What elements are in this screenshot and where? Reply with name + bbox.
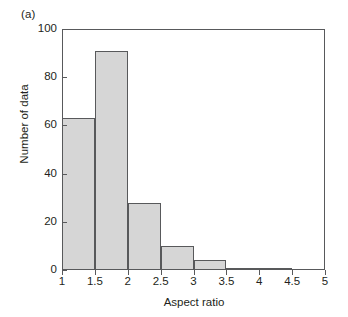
x-axis-tick-label: 2 <box>125 276 131 288</box>
y-axis-tick <box>62 77 67 78</box>
x-axis-tick-label: 3 <box>190 276 196 288</box>
y-axis-tick-label: 40 <box>44 168 57 180</box>
histogram-bar <box>194 260 227 270</box>
y-axis-title: Number of data <box>18 59 30 189</box>
panel-label: (a) <box>21 8 35 20</box>
y-axis-tick-label: 100 <box>38 23 57 35</box>
x-axis-tick-label: 5 <box>322 276 328 288</box>
x-axis-title-text: Aspect ratio <box>164 296 225 308</box>
y-axis-tick-label: 20 <box>44 216 57 228</box>
y-axis-tick-label: 0 <box>51 264 57 276</box>
y-axis-tick <box>62 222 67 223</box>
histogram-bar <box>95 51 128 270</box>
x-axis-tick-label: 4 <box>256 276 262 288</box>
histogram-figure: (a) 02040608010011.522.533.544.55 Aspect… <box>0 0 348 317</box>
histogram-bar <box>128 203 161 270</box>
histogram-bar <box>161 246 194 270</box>
y-axis-tick-label: 80 <box>44 71 57 83</box>
bars-layer <box>62 29 325 270</box>
x-axis-tick-label: 4.5 <box>284 276 300 288</box>
histogram-bar <box>62 118 95 270</box>
x-axis-tick-label: 1.5 <box>87 276 103 288</box>
x-axis-title: Aspect ratio <box>0 296 348 308</box>
y-axis-tick <box>62 29 67 30</box>
histogram-bar <box>226 268 259 270</box>
x-axis-tick-label: 1 <box>59 276 65 288</box>
histogram-bar <box>259 268 292 270</box>
x-axis-tick-label: 3.5 <box>218 276 234 288</box>
y-axis-tick <box>62 174 67 175</box>
y-axis-tick-label: 60 <box>44 119 57 131</box>
y-axis-tick <box>62 125 67 126</box>
x-axis-tick-label: 2.5 <box>153 276 169 288</box>
